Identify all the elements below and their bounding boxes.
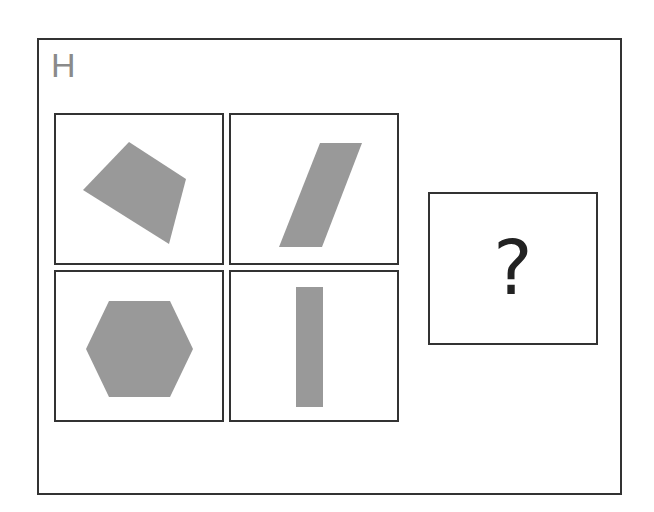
rectangle-shape (231, 272, 401, 424)
puzzle-label: H (51, 48, 76, 82)
quadrilateral-shape (56, 115, 226, 267)
panel-quadrilateral (54, 113, 224, 265)
panel-parallelogram (229, 113, 399, 265)
panel-hexagon (54, 270, 224, 422)
question-mark: ? (430, 228, 596, 308)
panel-rectangle (229, 270, 399, 422)
hexagon-shape (56, 272, 226, 424)
answer-box: ? (428, 192, 598, 345)
parallelogram-shape (231, 115, 401, 267)
